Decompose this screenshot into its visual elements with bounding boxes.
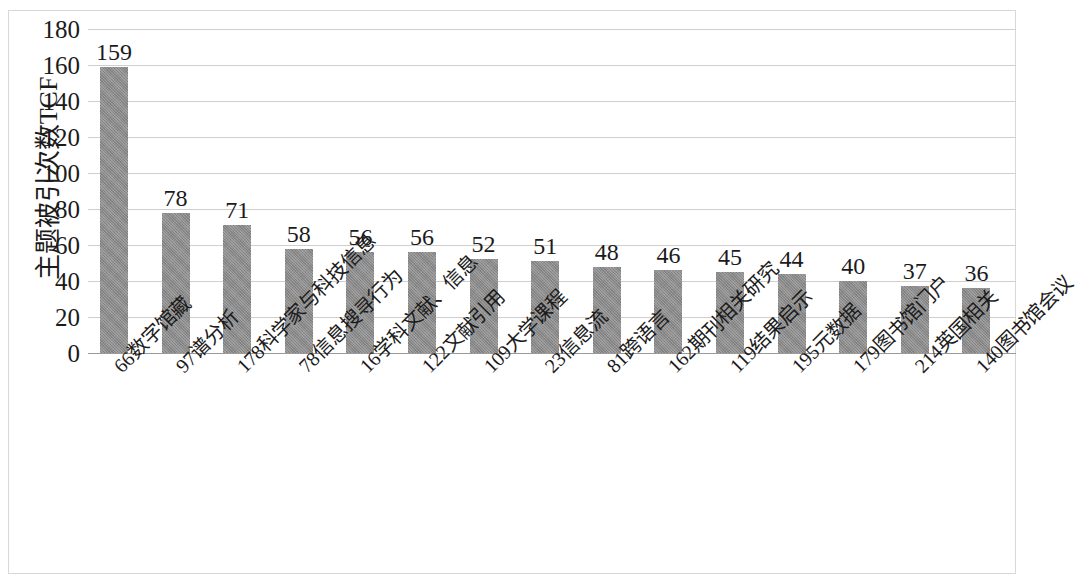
bar-value-label: 45 xyxy=(700,245,760,269)
bar-value-label: 58 xyxy=(269,222,329,246)
bar-value-label: 71 xyxy=(207,198,267,222)
y-tick-label-0: 0 xyxy=(0,341,80,366)
bar xyxy=(100,67,128,353)
bar-value-label: 51 xyxy=(515,234,575,258)
y-tick-label-140: 140 xyxy=(0,89,80,114)
bar-value-label: 36 xyxy=(946,261,1006,285)
y-tick-label-40: 40 xyxy=(0,269,80,294)
gridline-160 xyxy=(88,65,1016,66)
y-tick-label-160: 160 xyxy=(0,53,80,78)
gridline-100 xyxy=(88,173,1016,174)
y-tick-label-20: 20 xyxy=(0,305,80,330)
y-tick-label-80: 80 xyxy=(0,197,80,222)
bar-value-label: 46 xyxy=(638,243,698,267)
bar-value-label: 40 xyxy=(823,254,883,278)
y-tick-label-180: 180 xyxy=(0,17,80,42)
bar-value-label: 159 xyxy=(84,40,144,64)
bar-value-label: 48 xyxy=(577,240,637,264)
bar-value-label: 78 xyxy=(146,186,206,210)
gridline-120 xyxy=(88,137,1016,138)
bar-value-label: 56 xyxy=(392,225,452,249)
gridline-140 xyxy=(88,101,1016,102)
y-tick-label-60: 60 xyxy=(0,233,80,258)
y-tick-label-120: 120 xyxy=(0,125,80,150)
y-tick-label-100: 100 xyxy=(0,161,80,186)
gridline-180 xyxy=(88,29,1016,30)
